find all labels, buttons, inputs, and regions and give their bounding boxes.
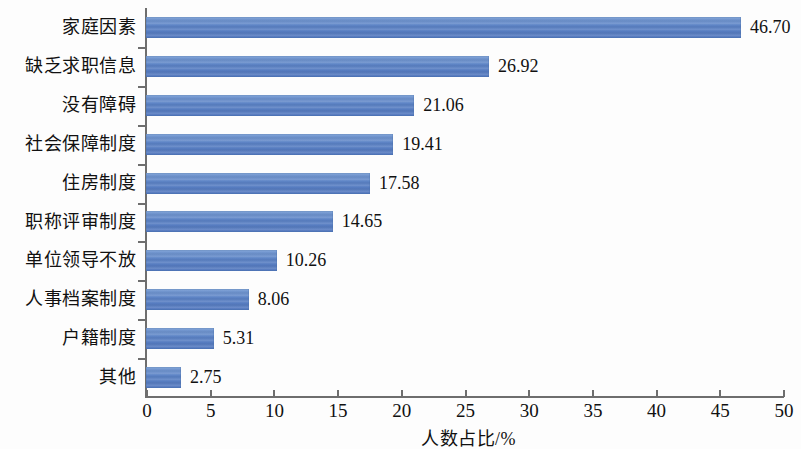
bar-row: 职称评审制度14.65 <box>0 203 801 242</box>
bar: 21.06 <box>146 95 414 116</box>
bar: 5.31 <box>146 328 214 349</box>
x-axis-tick <box>719 390 721 397</box>
x-axis-tick-label: 35 <box>573 400 613 422</box>
bar-row: 社会保障制度19.41 <box>0 125 801 164</box>
bar-value-label: 2.75 <box>181 367 222 388</box>
bar: 26.92 <box>146 56 489 77</box>
y-axis-tick <box>138 319 146 321</box>
bar-value-label: 17.58 <box>370 173 420 194</box>
category-label: 家庭因素 <box>0 8 136 47</box>
x-axis-tick <box>401 390 403 397</box>
bar-value-label: 19.41 <box>393 134 443 155</box>
bar-fill <box>146 250 277 271</box>
y-axis-tick <box>138 164 146 166</box>
bar-value-label: 26.92 <box>489 56 539 77</box>
bar: 2.75 <box>146 367 181 388</box>
bar-fill <box>146 211 333 232</box>
category-label: 住房制度 <box>0 164 136 203</box>
bar-value-label: 5.31 <box>214 328 255 349</box>
bar-row: 家庭因素46.70 <box>0 8 801 47</box>
bar-fill <box>146 134 393 155</box>
bar-row: 没有障碍21.06 <box>0 86 801 125</box>
y-axis-tick <box>138 358 146 360</box>
y-axis-tick <box>138 125 146 127</box>
category-label: 职称评审制度 <box>0 203 136 242</box>
bar-row: 单位领导不放10.26 <box>0 241 801 280</box>
y-axis-tick <box>138 280 146 282</box>
x-axis-tick <box>592 390 594 397</box>
x-axis-tick <box>656 390 658 397</box>
x-axis-title-label: 人数占比/% <box>421 424 516 449</box>
x-axis-tick-label: 25 <box>446 400 486 422</box>
x-axis-tick-label: 40 <box>637 400 677 422</box>
bar-fill <box>146 289 249 310</box>
x-axis-tick <box>146 390 148 397</box>
x-axis-tick <box>273 390 275 397</box>
bar-fill <box>146 328 214 349</box>
bar-chart: 家庭因素46.70缺乏求职信息26.92没有障碍21.06社会保障制度19.41… <box>0 0 801 449</box>
x-axis-title: 人数占比/% <box>0 424 801 449</box>
y-axis-tick <box>138 86 146 88</box>
bar-value-label: 8.06 <box>249 289 290 310</box>
bar: 14.65 <box>146 211 333 232</box>
x-axis-tick-label: 20 <box>382 400 422 422</box>
bar-row: 缺乏求职信息26.92 <box>0 47 801 86</box>
x-axis-tick-label: 30 <box>509 400 549 422</box>
category-label: 人事档案制度 <box>0 280 136 319</box>
bar-fill <box>146 95 414 116</box>
x-axis-tick-label: 15 <box>318 400 358 422</box>
bar-fill <box>146 56 489 77</box>
x-axis-tick <box>337 390 339 397</box>
x-axis-tick <box>465 390 467 397</box>
y-axis-tick <box>138 203 146 205</box>
category-label: 社会保障制度 <box>0 125 136 164</box>
category-label: 户籍制度 <box>0 319 136 358</box>
x-axis-tick-label: 10 <box>254 400 294 422</box>
bar-fill <box>146 17 741 38</box>
x-axis-tick-label: 5 <box>191 400 231 422</box>
bar-row: 人事档案制度8.06 <box>0 280 801 319</box>
bar-fill <box>146 173 370 194</box>
bar: 10.26 <box>146 250 277 271</box>
x-axis-tick-label: 45 <box>700 400 740 422</box>
bar-value-label: 14.65 <box>333 211 383 232</box>
bar: 8.06 <box>146 289 249 310</box>
x-axis-tick <box>783 390 785 397</box>
bar-row: 户籍制度5.31 <box>0 319 801 358</box>
bar: 19.41 <box>146 134 393 155</box>
x-axis-tick-label: 50 <box>764 400 801 422</box>
bar-fill <box>146 367 181 388</box>
bar-value-label: 46.70 <box>741 17 791 38</box>
bar: 17.58 <box>146 173 370 194</box>
bar-value-label: 21.06 <box>414 95 464 116</box>
category-label: 其他 <box>0 358 136 397</box>
bar-value-label: 10.26 <box>277 250 327 271</box>
category-label: 没有障碍 <box>0 86 136 125</box>
bar: 46.70 <box>146 17 741 38</box>
x-axis-tick <box>528 390 530 397</box>
y-axis-tick <box>138 47 146 49</box>
x-axis-tick <box>210 390 212 397</box>
y-axis-tick <box>138 241 146 243</box>
x-axis-tick-label: 0 <box>127 400 167 422</box>
bar-row: 住房制度17.58 <box>0 164 801 203</box>
category-label: 单位领导不放 <box>0 241 136 280</box>
category-label: 缺乏求职信息 <box>0 47 136 86</box>
